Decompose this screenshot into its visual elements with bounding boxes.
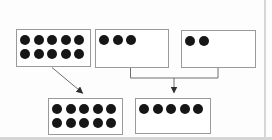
dot (52, 118, 62, 128)
dot (79, 104, 89, 114)
dot (47, 35, 57, 45)
dot (106, 118, 116, 128)
dot-box-top-left (16, 29, 91, 67)
dot-row (99, 35, 168, 45)
dot-row (185, 36, 255, 46)
dot-box-bottom-right (135, 98, 211, 134)
dot (185, 36, 195, 46)
dot (166, 104, 176, 114)
dot (106, 104, 116, 114)
dot (61, 35, 71, 45)
dot (180, 104, 190, 114)
dot (193, 104, 203, 114)
dot (47, 49, 57, 59)
dot (20, 35, 30, 45)
dot-row (20, 49, 90, 59)
dot (79, 118, 89, 128)
dot-row (52, 104, 122, 114)
dot-row (20, 35, 90, 45)
dot (93, 118, 103, 128)
dot-box-top-right (181, 30, 256, 68)
dot-box-bottom-left (48, 98, 123, 135)
dot (99, 35, 109, 45)
dot (139, 104, 149, 114)
dot-row (139, 104, 210, 114)
dot (199, 36, 209, 46)
arrow-top-left-to-bottom-left (52, 68, 83, 94)
dot (153, 104, 163, 114)
dot-box-top-middle (95, 29, 169, 68)
dot (34, 35, 44, 45)
dot-diagram (0, 0, 272, 140)
dot (74, 35, 84, 45)
dot-row (52, 118, 122, 128)
dot (20, 49, 30, 59)
dot (61, 49, 71, 59)
dot (93, 104, 103, 114)
dot (126, 35, 136, 45)
dot (113, 35, 123, 45)
dot (34, 49, 44, 59)
dot (74, 49, 84, 59)
dot (52, 104, 62, 114)
dot (66, 118, 76, 128)
bracket-middle-and-right (131, 68, 219, 79)
dot (66, 104, 76, 114)
